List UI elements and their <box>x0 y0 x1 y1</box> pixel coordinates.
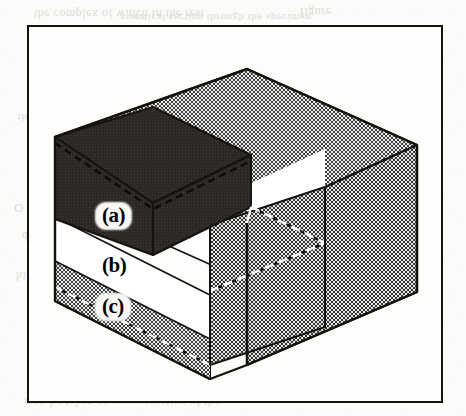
bleed-through-text: O <box>14 200 24 216</box>
bleed-through-text: the complex of which in the rest <box>34 6 205 21</box>
bleed-through-text: figure <box>300 4 332 19</box>
figure-label-a: (a) <box>97 204 130 228</box>
isometric-cutaway-drawing <box>29 27 445 405</box>
figure-label-b: (b) <box>97 254 131 278</box>
figure-frame: (a) (b) (c) <box>27 25 443 403</box>
figure-stage: (a) (b) (c) <box>29 27 441 401</box>
bleed-through-text: a vertical section through the specimen <box>120 12 311 24</box>
scanned-page: the complex of which in the resta vertic… <box>0 0 466 416</box>
figure-label-c: (c) <box>97 295 129 319</box>
